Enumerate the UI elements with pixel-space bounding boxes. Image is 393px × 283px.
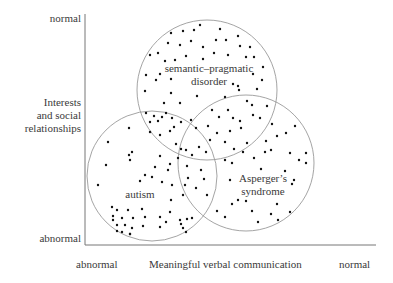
x-axis-left-label: abnormal bbox=[76, 258, 118, 271]
y-axis-title-line-2: and social bbox=[25, 109, 81, 122]
semantic-pragmatic-label: semantic–pragmatic disorder bbox=[157, 62, 261, 88]
y-axis-title: Interests and social relationships bbox=[25, 96, 81, 135]
semantic-pragmatic-label-line-1: semantic–pragmatic bbox=[157, 62, 261, 75]
aspergers-label: Asperger’s syndrome bbox=[228, 172, 298, 198]
y-axis-top-label: normal bbox=[50, 12, 81, 25]
x-axis-title: Meaningful verbal communication bbox=[149, 258, 302, 271]
semantic-pragmatic-circle bbox=[137, 20, 277, 160]
aspergers-label-line-2: syndrome bbox=[228, 185, 298, 198]
data-dots bbox=[97, 24, 307, 235]
aspergers-circle bbox=[178, 95, 314, 231]
x-axis-right-label: normal bbox=[339, 258, 370, 271]
semantic-pragmatic-label-line-2: disorder bbox=[157, 75, 261, 88]
aspergers-label-line-1: Asperger’s bbox=[228, 172, 298, 185]
y-axis-bottom-label: abnormal bbox=[39, 232, 81, 245]
autism-label-line-1: autism bbox=[110, 188, 170, 201]
y-axis-title-line-1: Interests bbox=[25, 96, 81, 109]
y-axis-title-line-3: relationships bbox=[25, 122, 81, 135]
autism-label: autism bbox=[110, 188, 170, 201]
